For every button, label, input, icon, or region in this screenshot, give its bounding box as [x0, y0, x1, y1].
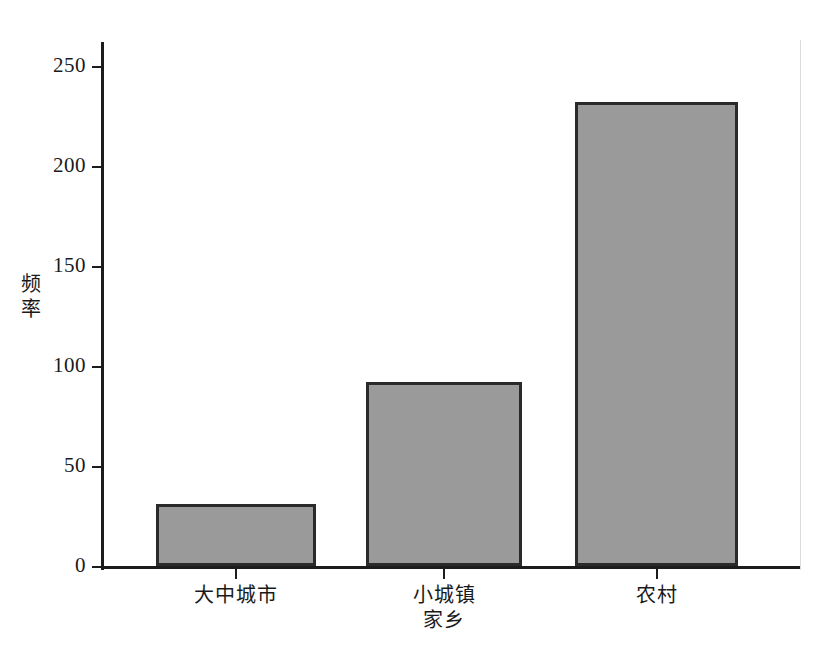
y-tick-mark	[92, 466, 103, 468]
y-tick-mark	[92, 166, 103, 168]
y-tick-mark	[92, 566, 103, 568]
bar-大中城市	[156, 504, 316, 566]
x-tick-mark	[443, 569, 445, 579]
bar-农村	[575, 102, 738, 566]
x-tick-mark	[235, 569, 237, 579]
y-tick-mark	[92, 266, 103, 268]
y-tick-mark	[92, 66, 103, 68]
y-tick-label-text: 0	[28, 555, 86, 576]
x-tick-mark	[656, 569, 658, 579]
y-tick-label: 200	[20, 155, 86, 176]
x-tick-label-小城镇: 小城镇	[413, 583, 476, 607]
y-tick-label-text: 100	[28, 355, 86, 376]
x-axis-title: 家乡	[423, 608, 465, 632]
x-tick-label-大中城市: 大中城市	[194, 583, 278, 607]
y-axis-title-char-2: 率	[17, 297, 45, 322]
y-tick-label: 0	[20, 555, 86, 576]
x-tick-label-农村: 农村	[636, 583, 678, 607]
y-tick-label-text: 250	[28, 55, 86, 76]
y-tick-label: 50	[20, 455, 86, 476]
y-tick-label: 250	[20, 55, 86, 76]
y-tick-label-text: 50	[28, 455, 86, 476]
y-axis-title: 频 率	[17, 272, 45, 322]
y-axis-line	[101, 42, 104, 570]
bar-小城镇	[366, 382, 522, 566]
x-axis-line	[101, 566, 801, 569]
y-axis-title-char-1: 频	[17, 272, 45, 297]
bar-chart: 050100150200250 大中城市小城镇农村 频 率 家乡	[0, 0, 832, 669]
y-tick-label: 100	[20, 355, 86, 376]
page-edge-artifact-line	[800, 40, 801, 570]
y-tick-mark	[92, 366, 103, 368]
y-tick-label-text: 200	[28, 155, 86, 176]
